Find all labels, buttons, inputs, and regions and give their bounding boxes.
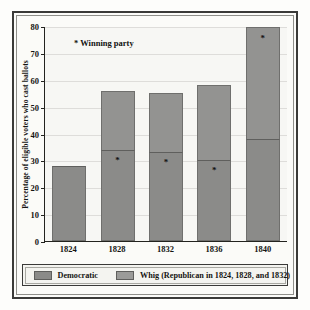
- legend-item[interactable]: Democratic: [34, 271, 98, 280]
- y-tick-label: 80: [31, 22, 40, 32]
- winner-star-icon: *: [164, 158, 169, 167]
- x-tick-label-1824: 1824: [51, 244, 85, 254]
- winning-party-annotation: * Winning party: [74, 38, 134, 48]
- bar-column-1828[interactable]: *: [101, 27, 135, 241]
- winner-star-icon: *: [115, 156, 120, 165]
- y-tick-label: 0: [35, 237, 39, 247]
- bar-segment-whig-1840[interactable]: *: [246, 27, 280, 139]
- bar-segment-democratic-1832[interactable]: *: [149, 152, 183, 241]
- y-tick-label: 40: [31, 130, 40, 140]
- y-tick-label: 30: [31, 156, 40, 166]
- legend: DemocraticWhig (Republican in 1824, 1828…: [22, 264, 288, 286]
- bar-group: ****: [45, 27, 287, 241]
- y-tick-label: 10: [31, 210, 40, 220]
- y-tick-label: 60: [31, 76, 40, 86]
- legend-item[interactable]: Whig (Republican in 1824, 1828, and 1832…: [116, 271, 290, 280]
- legend-label: Whig (Republican in 1824, 1828, and 1832…: [140, 271, 290, 280]
- bar-column-1840[interactable]: *: [246, 27, 280, 241]
- x-tick-label-1836: 1836: [197, 244, 231, 254]
- whig-swatch: [116, 271, 134, 280]
- bar-column-1824[interactable]: [52, 27, 86, 241]
- bar-segment-whig-1828[interactable]: [101, 91, 135, 150]
- bar-segment-whig-1832[interactable]: [149, 93, 183, 152]
- bar-segment-democratic-1836[interactable]: *: [197, 160, 231, 241]
- legend-inner: DemocraticWhig (Republican in 1824, 1828…: [25, 267, 286, 284]
- bar-column-1836[interactable]: *: [197, 27, 231, 241]
- plot-area: 01020304050607080 ****: [44, 27, 287, 242]
- winner-star-icon: *: [212, 166, 217, 175]
- figure-container: Percentage of eligible voters who cast b…: [0, 0, 310, 310]
- bar-segment-democratic-1840[interactable]: [246, 139, 280, 241]
- y-tick-mark: [41, 242, 45, 243]
- democratic-swatch: [34, 271, 52, 280]
- y-tick-label: 70: [31, 49, 40, 59]
- legend-label: Democratic: [58, 271, 98, 280]
- winner-star-icon: *: [261, 34, 266, 43]
- y-tick-label: 50: [31, 103, 40, 113]
- bar-segment-democratic-1824[interactable]: [52, 166, 86, 241]
- bar-column-1832[interactable]: *: [149, 27, 183, 241]
- x-axis-labels: 18241828183218361840: [44, 244, 287, 258]
- x-tick-label-1828: 1828: [100, 244, 134, 254]
- x-tick-label-1840: 1840: [246, 244, 280, 254]
- x-tick-label-1832: 1832: [148, 244, 182, 254]
- bar-segment-whig-1836[interactable]: [197, 85, 231, 160]
- bar-segment-democratic-1828[interactable]: *: [101, 150, 135, 241]
- y-tick-label: 20: [31, 183, 40, 193]
